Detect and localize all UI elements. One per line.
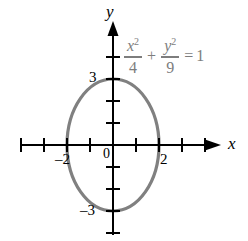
exponent-2: 2 [171, 36, 176, 47]
x-axis-arrowhead [205, 140, 221, 151]
x-tick-label-neg2: –2 [55, 152, 70, 167]
equals-operator: = [184, 47, 193, 65]
equation-annotation: x2 4 + y2 9 = 1 [122, 36, 207, 77]
equation-right-side: 1 [196, 47, 204, 65]
x-tick-label-2: 2 [160, 152, 168, 167]
plus-operator: + [147, 47, 156, 65]
origin-label: 0 [103, 147, 110, 161]
x-axis-label: x [228, 135, 236, 152]
y-tick-label-3: 3 [89, 70, 97, 85]
y-tick-label-neg3: –3 [80, 203, 95, 218]
y-axis-label: y [106, 3, 114, 20]
fraction-denominator: 9 [163, 58, 177, 77]
fraction-x-squared-over-4: x2 4 [124, 36, 142, 77]
fraction-numerator: y2 [161, 36, 179, 56]
fraction-y-squared-over-9: y2 9 [161, 36, 179, 77]
fraction-denominator: 4 [126, 58, 140, 77]
fraction-numerator: x2 [124, 36, 142, 56]
exponent-2: 2 [134, 36, 139, 47]
y-axis-arrowhead [108, 21, 119, 36]
graph-figure: y x 0 –2 2 3 –3 x2 4 + y2 9 = 1 [0, 0, 248, 241]
